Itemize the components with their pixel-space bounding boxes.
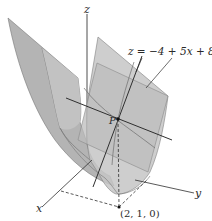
point-p [116, 117, 120, 121]
z-axis-label: z [84, 4, 90, 15]
y-axis-label: y [195, 188, 201, 199]
equation-label: z = −4 + 5x + 8y [128, 46, 212, 57]
x-axis [42, 160, 92, 207]
equation-leader-1 [136, 58, 142, 72]
base-point-label: (2, 1, 0) [120, 209, 160, 219]
point-p-label: P [109, 116, 116, 126]
tangent-plane-figure [0, 0, 212, 221]
equation-leader-2 [146, 58, 172, 88]
projection-x [61, 191, 119, 207]
y-axis [135, 180, 194, 193]
x-axis-label: x [36, 203, 42, 214]
